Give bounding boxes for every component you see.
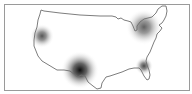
hotspot-northeast: [126, 9, 162, 45]
us-heatmap: [0, 0, 192, 94]
hotspot-florida: [135, 57, 153, 75]
